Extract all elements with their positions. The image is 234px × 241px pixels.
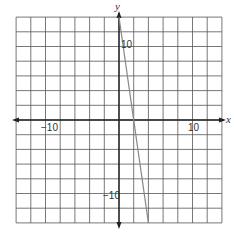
x-axis-right-arrow-icon [219, 118, 226, 123]
y-tick-label-neg10: −10 [103, 190, 120, 201]
x-axis-left-arrow-icon [12, 118, 19, 123]
y-axis-up-arrow-icon [117, 11, 122, 18]
x-tick-label-neg10: −10 [41, 122, 58, 133]
x-tick-label-pos10: 10 [188, 122, 200, 133]
y-axis-down-arrow-icon [117, 222, 122, 229]
x-axis-label: x [225, 113, 231, 125]
y-tick-label-pos10: 10 [121, 39, 133, 50]
y-axis-label: y [114, 0, 120, 12]
coordinate-plane: x y −10 10 10 −10 [0, 0, 234, 241]
